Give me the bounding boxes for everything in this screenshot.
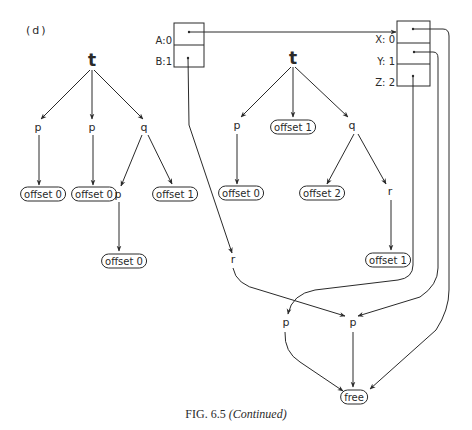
slot-label-y: Y: 1 [377, 56, 395, 68]
left-tree-node-p2: p [89, 122, 96, 134]
bottom-node-r: r [231, 254, 236, 266]
middle-tree-leaf-offset: offset 1 [270, 120, 316, 135]
left-tree-node-q: q [141, 122, 148, 134]
slot-label-z: Z: 2 [375, 77, 395, 89]
middle-tree-leaf-offset: offset 1 [365, 253, 411, 268]
left-tree-leaf-offset: offset 0 [101, 254, 147, 269]
part-label: (d) [26, 24, 48, 37]
middle-tree-leaf-offset: offset 0 [218, 186, 264, 201]
diagram: (d) t p p q offset 0 offset 0 p offset 1… [0, 0, 472, 430]
left-tree-leaf-offset: offset 0 [71, 187, 117, 202]
middle-tree-node-p: p [234, 120, 241, 132]
slot-label-a: A:0 [156, 35, 172, 47]
middle-tree-leaf-offset: offset 2 [299, 186, 345, 201]
middle-tree-node-q: q [349, 120, 356, 132]
caption-prefix: FIG. 6.5 [185, 407, 228, 421]
left-tree-node-q-p: p [115, 189, 122, 201]
middle-tree-node-r: r [388, 186, 393, 198]
middle-tree-root: t [289, 49, 297, 67]
caption-suffix: (Continued) [229, 407, 287, 421]
left-tree-leaf-offset: offset 0 [20, 187, 66, 202]
free-node: free [340, 390, 368, 405]
bottom-node-p-left: p [283, 317, 290, 329]
slot-label-x: X: 0 [375, 34, 395, 46]
bottom-node-p-right: p [350, 317, 357, 329]
left-tree-root: t [88, 51, 96, 69]
figure-caption: FIG. 6.5 (Continued) [0, 407, 472, 422]
left-tree-leaf-offset: offset 1 [152, 187, 198, 202]
slot-label-b: B:1 [155, 56, 172, 68]
left-tree-node-p1: p [35, 122, 42, 134]
edges-layer [0, 0, 472, 430]
